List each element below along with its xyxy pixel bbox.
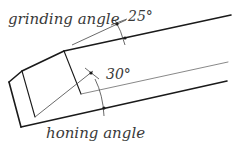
grinding-angle-value: 25° (128, 8, 153, 24)
grinding-angle-label: grinding angle (8, 10, 120, 28)
honing-angle-value: 30° (106, 66, 131, 82)
chisel-angle-diagram: grinding angle 25° 30° honing angle (0, 0, 238, 165)
honing-angle-label: honing angle (46, 124, 145, 142)
